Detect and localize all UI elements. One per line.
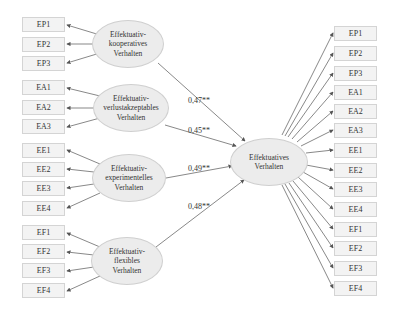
indicator-box-ea1-right: EA1 [334, 85, 377, 100]
indicator-box-ep1-left: EP1 [22, 17, 65, 32]
path-coefficient-kooperativ: 0,47** [188, 96, 210, 105]
path-coefficient-flexibel: 0,48** [188, 202, 210, 211]
factor-ellipse-verlustakzeptabel: Effektuativ- verlustakzeptables Verhalte… [93, 84, 169, 132]
indicator-box-ef3-left: EF3 [22, 263, 65, 278]
indicator-box-ep2-left: EP2 [22, 37, 65, 52]
indicator-box-ee1-right: EE1 [334, 143, 377, 158]
indicator-box-ep3-left: EP3 [22, 56, 65, 71]
indicator-box-ea3-right: EA3 [334, 123, 377, 138]
factor-ellipse-flexibel: Effektuativ- flexibles Verhalten [91, 237, 163, 285]
factor-label: Effektuativ- kooperatives Verhalten [109, 30, 147, 59]
indicator-box-ee1-left: EE1 [22, 143, 65, 158]
indicator-box-ef3-right: EF3 [334, 261, 377, 276]
factor-ellipse-kooperativ: Effektuativ- kooperatives Verhalten [92, 20, 164, 68]
indicator-box-ef4-left: EF4 [22, 283, 65, 298]
indicator-box-ep3-right: EP3 [334, 66, 377, 81]
indicator-box-ep1-right: EP1 [334, 26, 377, 41]
path-coefficient-verlustakzeptabel: 0,45** [188, 126, 210, 135]
path-coefficient-experimentell: 0,49** [188, 164, 210, 173]
indicator-box-ef1-right: EF1 [334, 222, 377, 237]
indicator-box-ef1-left: EF1 [22, 225, 65, 240]
indicator-box-ee3-left: EE3 [22, 181, 65, 196]
factor-label: Effektuativ- experimentelles Verhalten [105, 164, 152, 193]
indicator-box-ee4-right: EE4 [334, 202, 377, 217]
indicator-box-ea2-right: EA2 [334, 104, 377, 119]
indicator-box-ea3-left: EA3 [22, 119, 65, 134]
central-construct-ellipse: Effektuatives Verhalten [230, 138, 308, 186]
factor-label: Effektuativ- flexibles Verhalten [109, 247, 145, 276]
indicator-box-ee2-right: EE2 [334, 163, 377, 178]
indicator-box-ea2-left: EA2 [22, 100, 65, 115]
indicator-box-ef2-left: EF2 [22, 244, 65, 259]
factor-label: Effektuativ- verlustakzeptables Verhalte… [103, 94, 158, 123]
indicator-box-ef2-right: EF2 [334, 241, 377, 256]
indicator-box-ep2-right: EP2 [334, 46, 377, 61]
central-construct-label: Effektuatives Verhalten [249, 153, 289, 172]
indicator-box-ef4-right: EF4 [334, 281, 377, 296]
factor-ellipse-experimentell: Effektuativ- experimentelles Verhalten [92, 154, 166, 202]
indicator-box-ea1-left: EA1 [22, 80, 65, 95]
indicator-box-ee4-left: EE4 [22, 201, 65, 216]
indicator-box-ee3-right: EE3 [334, 182, 377, 197]
sem-path-diagram: EP1 EP2 EP3 EA1 EA2 EA3 EE1 EE2 EE3 EE4 … [0, 0, 399, 314]
indicator-box-ee2-left: EE2 [22, 162, 65, 177]
